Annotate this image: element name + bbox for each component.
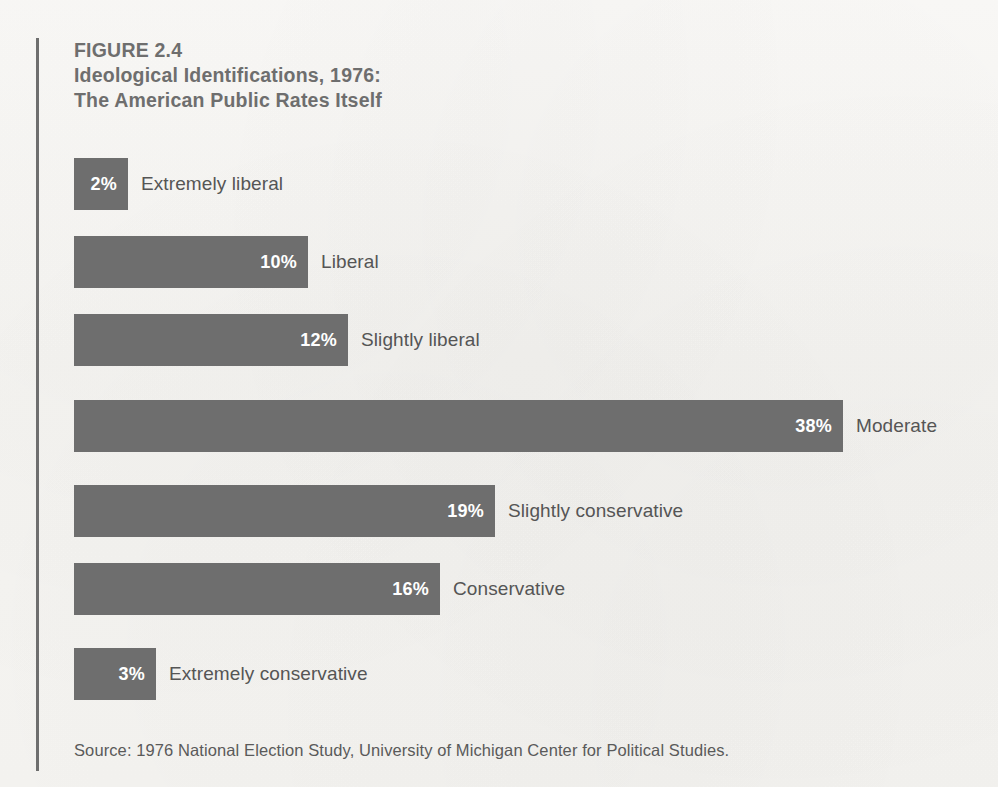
figure-page: FIGURE 2.4 Ideological Identifications, … bbox=[0, 0, 998, 787]
bar-chart: 2%Extremely liberal10%Liberal12%Slightly… bbox=[0, 0, 998, 787]
bar-value-label: 16% bbox=[392, 579, 429, 600]
bar-value-label: 2% bbox=[91, 174, 117, 195]
bar-row: 12%Slightly liberal bbox=[74, 314, 480, 366]
bar-value-label: 3% bbox=[119, 664, 145, 685]
bar-row: 10%Liberal bbox=[74, 236, 379, 288]
bar-row: 3%Extremely conservative bbox=[74, 648, 368, 700]
bar-category-label: Slightly conservative bbox=[508, 500, 683, 522]
bar-rect: 38% bbox=[74, 400, 843, 452]
bar-category-label: Extremely liberal bbox=[141, 173, 283, 195]
bar-category-label: Liberal bbox=[321, 251, 379, 273]
bar-row: 16%Conservative bbox=[74, 563, 565, 615]
bar-rect: 10% bbox=[74, 236, 308, 288]
bar-rect: 12% bbox=[74, 314, 348, 366]
bar-category-label: Slightly liberal bbox=[361, 329, 480, 351]
bar-rect: 2% bbox=[74, 158, 128, 210]
bar-category-label: Extremely conservative bbox=[169, 663, 368, 685]
bar-category-label: Conservative bbox=[453, 578, 565, 600]
bar-rect: 16% bbox=[74, 563, 440, 615]
bar-row: 38%Moderate bbox=[74, 400, 937, 452]
bar-row: 2%Extremely liberal bbox=[74, 158, 283, 210]
bar-row: 19%Slightly conservative bbox=[74, 485, 683, 537]
bar-rect: 3% bbox=[74, 648, 156, 700]
bar-rect: 19% bbox=[74, 485, 495, 537]
bar-value-label: 38% bbox=[795, 416, 832, 437]
source-note: Source: 1976 National Election Study, Un… bbox=[74, 741, 729, 760]
bar-value-label: 12% bbox=[300, 330, 337, 351]
bar-category-label: Moderate bbox=[856, 415, 937, 437]
bar-value-label: 10% bbox=[260, 252, 297, 273]
bar-value-label: 19% bbox=[447, 501, 484, 522]
